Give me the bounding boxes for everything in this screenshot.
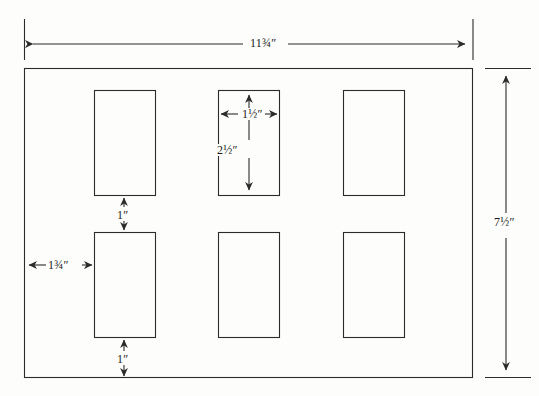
cell-row2-col2 [219,233,280,338]
cell-row2-col1 [95,233,156,338]
cell-width-label: 1½″ [240,108,265,120]
overall-height-label: 7½″ [492,216,517,228]
row-gap-label: 1″ [115,209,130,221]
cell-row2-col3 [344,233,405,338]
overall-width-label: 11¾″ [248,37,278,49]
cell-row1-col3 [344,91,405,196]
cell-height-label: 2½″ [215,144,240,156]
diagram-page: 11¾″ 7½″ 1½″ 2½″ 1¾″ 1″ 1″ [0,0,539,396]
bottom-gap-label: 1″ [115,353,130,365]
cell-row1-col1 [95,91,156,196]
left-margin-label: 1¾″ [46,259,71,271]
dimension-diagram [0,0,539,396]
